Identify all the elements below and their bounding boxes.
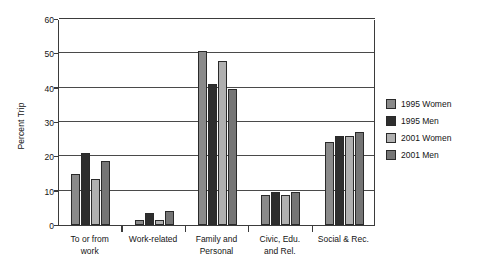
- y-tick-label-0: 0: [32, 222, 54, 231]
- bar-group: [198, 20, 237, 225]
- y-tick-label-30: 30: [32, 119, 54, 128]
- bar: [145, 213, 154, 225]
- bar-chart: Percent Trip 0102030405060 To or fromwor…: [0, 0, 486, 278]
- y-tick-label-20: 20: [32, 153, 54, 162]
- y-tick-label-10: 10: [32, 188, 54, 197]
- x-tick-mark: [248, 226, 249, 232]
- legend: 1995 Women1995 Men2001 Women2001 Men: [386, 96, 482, 164]
- legend-label: 1995 Men: [401, 116, 439, 126]
- legend-item[interactable]: 2001 Women: [386, 130, 482, 146]
- bar-group: [71, 20, 110, 225]
- x-label-line: and Rel.: [242, 246, 317, 258]
- bar-group: [261, 20, 300, 225]
- legend-label: 2001 Men: [401, 150, 439, 160]
- bar: [91, 179, 100, 225]
- bar: [101, 161, 110, 225]
- bar: [165, 211, 174, 225]
- bar: [355, 132, 364, 225]
- legend-swatch-icon: [386, 150, 396, 160]
- bar: [281, 195, 290, 225]
- bar: [345, 136, 354, 225]
- bar: [335, 136, 344, 225]
- bar: [228, 89, 237, 225]
- y-axis-ticks: 0102030405060: [28, 20, 54, 226]
- bar: [155, 220, 164, 225]
- x-tick-mark: [312, 226, 313, 232]
- y-tick-label-60: 60: [32, 16, 54, 25]
- bar: [81, 153, 90, 225]
- x-axis-label: Social & Rec.: [306, 234, 381, 246]
- x-tick-mark: [121, 226, 122, 232]
- legend-item[interactable]: 1995 Women: [386, 96, 482, 112]
- bar: [291, 192, 300, 225]
- legend-swatch-icon: [386, 99, 396, 109]
- bar: [325, 142, 334, 225]
- x-label-line: work: [52, 246, 127, 258]
- bar: [261, 195, 270, 225]
- bars-layer: [59, 20, 375, 225]
- legend-label: 2001 Women: [401, 133, 451, 143]
- x-axis-labels: To or fromworkWork-relatedFamily andPers…: [58, 234, 375, 274]
- x-axis-ticks: [58, 226, 375, 234]
- gridline-60: [59, 18, 375, 19]
- y-tick-label-50: 50: [32, 50, 54, 59]
- plot-area: [58, 20, 375, 226]
- bar: [135, 220, 144, 225]
- bar-group: [135, 20, 174, 225]
- y-tick-label-40: 40: [32, 85, 54, 94]
- bar: [198, 51, 207, 225]
- x-tick-mark: [185, 226, 186, 232]
- legend-label: 1995 Women: [401, 99, 451, 109]
- legend-swatch-icon: [386, 133, 396, 143]
- legend-swatch-icon: [386, 116, 396, 126]
- bar-group: [325, 20, 364, 225]
- legend-item[interactable]: 1995 Men: [386, 113, 482, 129]
- legend-item[interactable]: 2001 Men: [386, 147, 482, 163]
- bar: [218, 61, 227, 225]
- x-label-line: Social & Rec.: [306, 234, 381, 246]
- bar: [271, 192, 280, 225]
- bar: [208, 84, 217, 225]
- bar: [71, 174, 80, 226]
